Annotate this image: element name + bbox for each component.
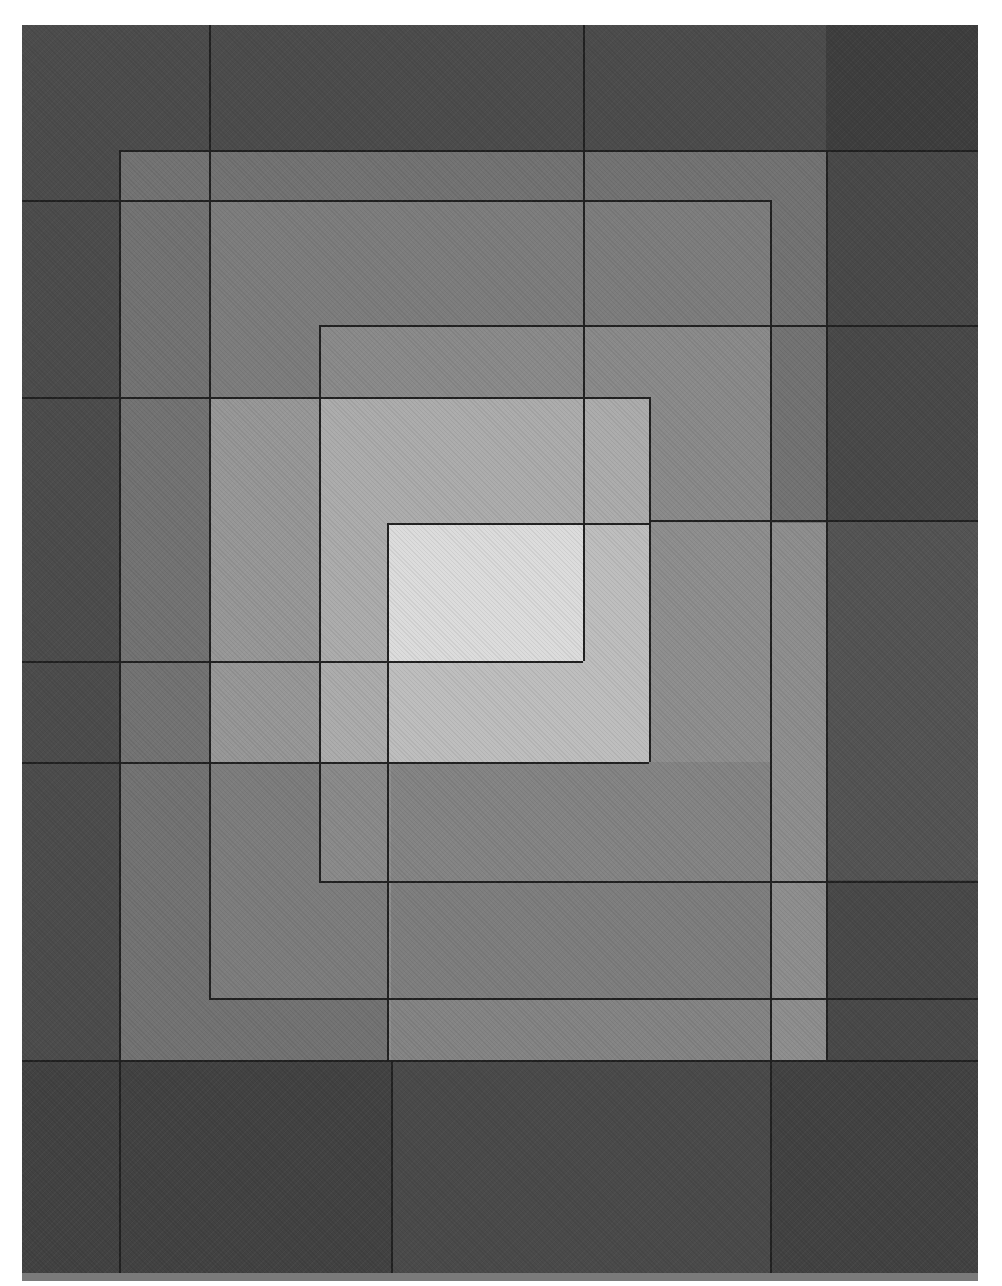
horizontal-line [22,661,583,663]
horizontal-line [22,1060,978,1062]
vertical-line [649,397,651,762]
bottom-edge-strip [22,1273,978,1281]
vertical-line [826,150,828,1060]
region-top-right-dark [826,25,978,150]
vertical-line [583,25,585,661]
horizontal-line [387,523,649,525]
region-bottom-mid-panel [391,1060,770,1277]
vertical-line [391,1060,393,1277]
painting-canvas [22,25,978,1277]
horizontal-line [22,397,649,399]
horizontal-line [649,520,978,522]
horizontal-line [319,325,978,327]
vertical-line [209,25,211,998]
horizontal-line [22,200,770,202]
region-center-light [387,523,583,661]
horizontal-line [209,998,978,1000]
vertical-line [770,200,772,1277]
horizontal-line [119,150,978,152]
region-lower-band-inner [391,881,770,998]
horizontal-line [319,881,978,883]
horizontal-line [22,762,649,764]
region-right-mid-band [826,520,978,880]
vertical-line [319,325,321,881]
vertical-line [119,150,121,1277]
vertical-line [387,523,389,1060]
